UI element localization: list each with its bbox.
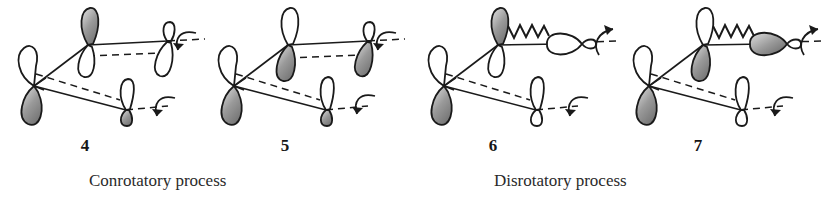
- upper-middle-orbital: [488, 8, 508, 77]
- upper-right-orbital: [547, 34, 596, 55]
- structure-5-drawing: [200, 0, 410, 135]
- wavy-bond: [502, 25, 549, 40]
- rotation-arrow-top: [596, 25, 613, 55]
- bond-framework: [234, 39, 405, 110]
- structure-6-drawing: [410, 0, 625, 135]
- structure-4: 4: [0, 0, 210, 135]
- structure-5: 5: [200, 0, 410, 135]
- structure-6: 6: [410, 0, 625, 135]
- upper-right-orbital: [750, 33, 801, 56]
- left-terminal-orbital: [429, 46, 452, 125]
- structure-number-5: 5: [272, 136, 298, 156]
- upper-right-orbital: [355, 22, 375, 76]
- bond-framework: [34, 39, 205, 110]
- rotation-arrow-bottom: [352, 95, 375, 114]
- wavy-bond: [707, 25, 754, 40]
- bond-framework: [649, 41, 821, 110]
- structure-7-drawing: [615, 0, 829, 135]
- caption-disrotatory: Disrotatory process: [494, 171, 627, 191]
- lower-middle-orbital: [531, 77, 544, 126]
- rotation-arrow-top: [801, 25, 818, 55]
- upper-right-orbital: [155, 22, 175, 76]
- structure-4-drawing: [0, 0, 210, 135]
- lower-middle-orbital: [121, 79, 134, 126]
- lower-middle-orbital: [736, 77, 749, 126]
- upper-middle-orbital: [78, 8, 98, 77]
- lower-middle-orbital: [321, 77, 334, 126]
- left-terminal-orbital: [19, 46, 42, 125]
- structure-7: 7: [615, 0, 829, 135]
- rotation-arrow-top: [373, 32, 396, 50]
- structure-number-6: 6: [480, 136, 506, 156]
- left-terminal-orbital: [634, 46, 657, 125]
- caption-conrotatory: Conrotatory process: [89, 171, 226, 191]
- structure-number-4: 4: [72, 136, 98, 156]
- left-terminal-orbital: [219, 46, 242, 125]
- orbital-diagram-figure: 4: [0, 0, 829, 199]
- structure-number-7: 7: [685, 136, 711, 156]
- rotation-arrow-top: [173, 32, 196, 50]
